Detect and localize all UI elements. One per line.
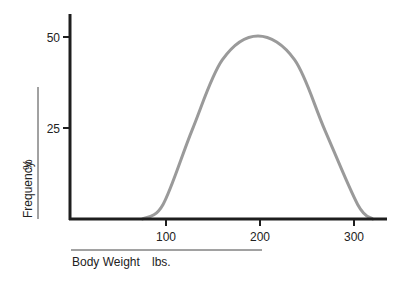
x-axis-title: Body Weight: [72, 255, 140, 269]
distribution-curve: [142, 36, 372, 219]
x-axis-unit: lbs.: [152, 255, 171, 269]
x-tick-label-100: 100: [156, 230, 176, 244]
y-tick-label-50: 50: [47, 31, 61, 45]
chart-canvas: 50 25 100 200 300 Body Weight lbs. Frequ…: [0, 0, 405, 282]
x-tick-label-300: 300: [344, 230, 364, 244]
y-tick-label-25: 25: [47, 122, 61, 136]
y-axis-unit: %: [21, 159, 35, 170]
x-tick-label-200: 200: [250, 230, 270, 244]
